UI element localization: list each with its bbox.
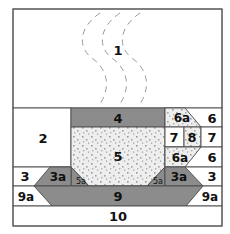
label-piece-9a-right: 9a	[202, 190, 218, 204]
label-piece-5a-left: 5a	[76, 177, 86, 186]
label-piece-5: 5	[113, 149, 122, 164]
quilt-block-diagram: 1 2 4 5 5a 5a 6a 6 7 8 7 6a 6 3 3a 3a 3 …	[0, 0, 230, 234]
piece-1-background	[13, 9, 222, 108]
label-piece-5a-right: 5a	[153, 177, 163, 186]
label-piece-1: 1	[113, 43, 122, 58]
label-piece-6-top: 6	[207, 111, 216, 126]
label-piece-3a-right: 3a	[171, 170, 187, 184]
label-piece-4: 4	[113, 111, 122, 126]
label-piece-6a-top: 6a	[174, 111, 190, 125]
label-piece-3-right: 3	[207, 169, 216, 184]
label-piece-9: 9	[113, 189, 122, 204]
label-piece-8: 8	[187, 130, 196, 145]
label-piece-3a-left: 3a	[50, 170, 66, 184]
label-piece-6-bottom: 6	[207, 150, 216, 165]
label-piece-3-left: 3	[20, 169, 29, 184]
label-piece-7-right: 7	[207, 130, 216, 145]
label-piece-9a-left: 9a	[18, 190, 34, 204]
label-piece-2: 2	[38, 131, 47, 146]
label-piece-6a-bottom: 6a	[172, 151, 188, 165]
label-piece-7-left: 7	[169, 130, 178, 145]
label-piece-10: 10	[109, 209, 127, 224]
